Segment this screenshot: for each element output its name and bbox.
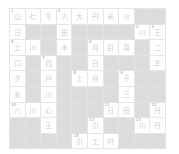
answer-cell[interactable]: 9子: [119, 71, 135, 87]
answer-cell[interactable]: 女: [10, 87, 26, 103]
answer-cell[interactable]: 目: [104, 40, 120, 56]
block-cell: [104, 118, 120, 134]
cell-glyph: 三: [119, 90, 134, 100]
block-cell: [26, 87, 42, 103]
cell-glyph: 羊: [150, 59, 165, 69]
cell-glyph: 田: [119, 106, 134, 116]
cell-glyph: 夕: [10, 74, 25, 84]
answer-cell[interactable]: 米: [104, 9, 120, 25]
cell-glyph: 山: [10, 12, 25, 22]
block-cell: [150, 71, 166, 87]
answer-cell[interactable]: 木: [57, 40, 73, 56]
block-cell: [104, 87, 120, 103]
answer-cell[interactable]: 10八: [10, 103, 26, 119]
cell-glyph: 川: [135, 28, 150, 38]
answer-cell[interactable]: 川: [26, 40, 42, 56]
crossword-grid: 1山七平2人大円米火日田3川4王5土川木6月目耳二口7四日羊夕戸8上目9子女川三…: [9, 8, 166, 149]
block-cell: [26, 25, 42, 41]
answer-cell[interactable]: 丹: [150, 118, 166, 134]
answer-cell[interactable]: 6月: [88, 40, 104, 56]
answer-cell[interactable]: 口: [10, 56, 26, 72]
cell-glyph: 王: [150, 28, 165, 38]
answer-cell[interactable]: 工: [88, 134, 104, 150]
block-cell: [119, 25, 135, 41]
cell-glyph: 日: [88, 59, 103, 69]
answer-cell[interactable]: 羊: [150, 56, 166, 72]
cell-glyph: 心: [41, 106, 56, 116]
answer-cell[interactable]: 1山: [10, 9, 26, 25]
answer-cell[interactable]: 14川: [135, 118, 151, 134]
answer-cell[interactable]: 二: [150, 40, 166, 56]
answer-cell[interactable]: 川: [26, 103, 42, 119]
block-cell: [72, 87, 88, 103]
answer-cell[interactable]: 7四: [41, 56, 57, 72]
cell-glyph: 引: [72, 137, 87, 147]
answer-cell[interactable]: 火: [119, 9, 135, 25]
block-cell: [119, 118, 135, 134]
cell-glyph: 子: [119, 74, 134, 84]
cell-glyph: 川: [26, 106, 41, 116]
block-cell: [135, 40, 151, 56]
block-cell: [150, 87, 166, 103]
answer-cell[interactable]: 村: [104, 134, 120, 150]
answer-cell[interactable]: 11日: [104, 103, 120, 119]
answer-cell[interactable]: 8上: [72, 71, 88, 87]
block-cell: [10, 118, 26, 134]
answer-cell[interactable]: 3川: [135, 25, 151, 41]
answer-cell[interactable]: 夕: [10, 71, 26, 87]
block-cell: [88, 87, 104, 103]
block-cell: [135, 87, 151, 103]
cell-glyph: 丹: [150, 106, 165, 116]
answer-cell[interactable]: 田: [57, 25, 73, 41]
cell-glyph: 二: [150, 43, 165, 53]
block-cell: [104, 71, 120, 87]
answer-cell[interactable]: 2人: [57, 9, 73, 25]
cell-glyph: 土: [10, 43, 25, 53]
answer-cell[interactable]: 王: [41, 118, 57, 134]
cell-glyph: 目: [88, 74, 103, 84]
answer-cell[interactable]: 4王: [150, 25, 166, 41]
answer-cell[interactable]: 戸: [41, 71, 57, 87]
answer-cell[interactable]: 目: [88, 71, 104, 87]
block-cell: [135, 134, 151, 150]
cell-glyph: 平: [41, 12, 56, 22]
cell-glyph: 川: [135, 121, 150, 131]
answer-cell[interactable]: 心: [41, 103, 57, 119]
answer-cell[interactable]: 七: [26, 9, 42, 25]
block-cell: [119, 134, 135, 150]
answer-cell[interactable]: 5土: [10, 40, 26, 56]
cell-glyph: 大: [72, 12, 87, 22]
block-cell: [104, 56, 120, 72]
answer-cell[interactable]: 12丹: [150, 103, 166, 119]
cell-glyph: 目: [104, 43, 119, 53]
cell-glyph: 日: [10, 28, 25, 38]
answer-cell[interactable]: 日: [88, 56, 104, 72]
answer-cell[interactable]: 川: [41, 87, 57, 103]
block-cell: [57, 71, 73, 87]
answer-cell[interactable]: 大: [72, 9, 88, 25]
answer-cell[interactable]: 三: [119, 87, 135, 103]
answer-cell[interactable]: 平: [41, 9, 57, 25]
cell-glyph: 米: [104, 12, 119, 22]
answer-cell[interactable]: 15引: [72, 134, 88, 150]
cell-glyph: 川: [26, 43, 41, 53]
answer-cell[interactable]: 13引: [88, 118, 104, 134]
cell-glyph: 工: [88, 137, 103, 147]
answer-cell[interactable]: 田: [119, 103, 135, 119]
block-cell: [72, 25, 88, 41]
answer-cell[interactable]: 日: [10, 25, 26, 41]
answer-cell[interactable]: 円: [88, 9, 104, 25]
block-cell: [150, 9, 166, 25]
cell-glyph: 七: [26, 12, 41, 22]
cell-glyph: 村: [104, 137, 119, 147]
cell-glyph: 丹: [150, 121, 165, 131]
cell-glyph: 引: [88, 121, 103, 131]
block-cell: [72, 118, 88, 134]
cell-glyph: 円: [88, 12, 103, 22]
block-cell: [57, 103, 73, 119]
cell-glyph: 女: [10, 90, 25, 100]
cell-glyph: 戸: [41, 74, 56, 84]
answer-cell[interactable]: 耳: [119, 40, 135, 56]
block-cell: [26, 134, 42, 150]
cell-glyph: 火: [119, 12, 134, 22]
